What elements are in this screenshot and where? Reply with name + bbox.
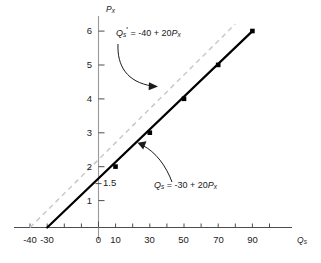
y-tick-label-4: 4 bbox=[78, 94, 92, 104]
data-point-marker bbox=[216, 63, 221, 68]
original-eq-p-sub: x bbox=[214, 183, 217, 190]
y-axis-title: Px bbox=[106, 5, 115, 15]
shifted-eq-p-sub: x bbox=[178, 31, 181, 38]
y-tick-label-3: 3 bbox=[78, 128, 92, 138]
x-tick-label-neg30: -30 bbox=[33, 235, 61, 245]
data-point-marker bbox=[250, 29, 255, 34]
y-tick-label-1: 1 bbox=[78, 196, 92, 206]
y-tick-label-2: 2 bbox=[78, 162, 92, 172]
x-tick-label-30: 30 bbox=[140, 235, 159, 245]
shifted-supply-equation: Qs' = -40 + 20Px bbox=[116, 26, 181, 39]
y-tick-label-5: 5 bbox=[78, 60, 92, 70]
x-tick-label-70: 70 bbox=[209, 235, 228, 245]
x-tick-label-10: 10 bbox=[106, 235, 125, 245]
plot-canvas bbox=[0, 0, 321, 263]
x-axis-ticks bbox=[30, 222, 270, 228]
shifted-eq-equals: = bbox=[128, 28, 138, 38]
supply-curve-figure: Px Qs 6 5 4 3 2 1 -40 -30 0 10 30 50 70 … bbox=[0, 0, 321, 263]
data-point-marker bbox=[148, 130, 153, 135]
y-tick-label-6: 6 bbox=[78, 26, 92, 36]
price-intercept-label: 1.5 bbox=[103, 178, 116, 188]
original-eq-q: Q bbox=[154, 180, 161, 190]
data-point-marker bbox=[182, 97, 187, 102]
original-supply-arrow bbox=[138, 141, 173, 182]
x-tick-label-90: 90 bbox=[243, 235, 262, 245]
shifted-supply-arrow bbox=[118, 44, 158, 90]
shifted-supply-line bbox=[30, 24, 235, 228]
x-axis-title-sub: s bbox=[304, 238, 307, 245]
shifted-eq-q: Q bbox=[116, 28, 123, 38]
original-eq-equals: = bbox=[164, 180, 174, 190]
x-tick-label-50: 50 bbox=[174, 235, 193, 245]
data-point-marker bbox=[113, 164, 118, 169]
shifted-eq-rhs: -40 + 20 bbox=[138, 28, 171, 38]
y-axis-title-sub: x bbox=[112, 7, 115, 14]
original-supply-equation: Qs = -30 + 20Px bbox=[154, 181, 217, 191]
original-eq-rhs: -30 + 20 bbox=[175, 180, 208, 190]
x-tick-label-0: 0 bbox=[91, 235, 106, 245]
x-axis-title: Qs bbox=[297, 236, 307, 246]
x-axis-title-main: Q bbox=[297, 235, 304, 245]
